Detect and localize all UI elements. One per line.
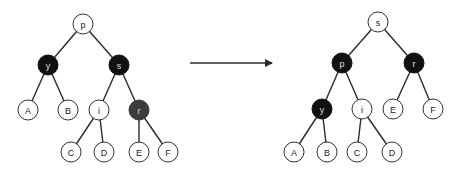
- after-node-E: E: [383, 99, 403, 119]
- after-node-r: r: [404, 53, 424, 73]
- before-node-s: s: [109, 55, 129, 75]
- node-label: s: [376, 18, 381, 28]
- tree-rotation-diagram: pysABirCDEFspryiEFABCD: [0, 0, 459, 174]
- node-label: r: [413, 59, 416, 69]
- before-node-A: A: [18, 100, 38, 120]
- before-node-y: y: [38, 55, 58, 75]
- before-node-E: E: [129, 142, 149, 162]
- after-node-F: F: [423, 99, 443, 119]
- node-label: E: [390, 105, 396, 115]
- before-node-r: r: [129, 100, 149, 120]
- after-node-p: p: [332, 53, 352, 73]
- node-label: p: [80, 20, 85, 30]
- after-node-i: i: [352, 99, 372, 119]
- node-label: A: [25, 106, 31, 116]
- node-label: E: [136, 148, 142, 158]
- node-label: D: [101, 148, 108, 158]
- node-label: i: [98, 106, 100, 116]
- node-label: C: [354, 148, 361, 158]
- after-node-B: B: [317, 142, 337, 162]
- before-node-D: D: [94, 142, 114, 162]
- after-node-C: C: [347, 142, 367, 162]
- node-label: B: [324, 148, 330, 158]
- before-node-C: C: [61, 142, 81, 162]
- edges: [28, 22, 433, 152]
- node-label: s: [117, 61, 122, 71]
- after-node-s: s: [368, 12, 388, 32]
- node-label: C: [68, 148, 75, 158]
- node-label: p: [339, 59, 344, 69]
- before-node-B: B: [58, 100, 78, 120]
- before-node-F: F: [158, 142, 178, 162]
- node-label: A: [291, 148, 297, 158]
- after-node-A: A: [284, 142, 304, 162]
- node-label: i: [361, 105, 363, 115]
- nodes: pysABirCDEFspryiEFABCD: [18, 12, 443, 162]
- before-node-i: i: [89, 100, 109, 120]
- after-node-y: y: [312, 99, 332, 119]
- node-label: r: [138, 106, 141, 116]
- node-label: B: [65, 106, 71, 116]
- node-label: y: [46, 61, 51, 71]
- after-node-D: D: [382, 142, 402, 162]
- node-label: F: [165, 148, 171, 158]
- before-node-p: p: [73, 14, 93, 34]
- node-label: F: [430, 105, 436, 115]
- node-label: y: [320, 105, 325, 115]
- node-label: D: [389, 148, 396, 158]
